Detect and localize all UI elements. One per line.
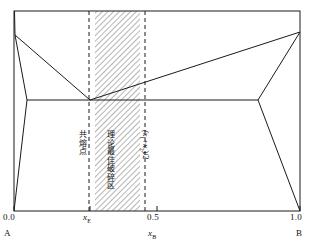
solvus-right-line [258,100,300,211]
annotation-midpoint-formula: (x1+x2)/2 [139,130,150,160]
phase-diagram-figure: 0.0 0.5 1.0 xE A B xB 共熔点 理论最佳破碎区 (x1+x2… [0,0,312,246]
x-axis-title-subscript: B [152,234,156,240]
tick-label-1: 1.0 [290,212,302,222]
endpoint-label-B: B [296,228,302,238]
solidus-left-line [15,35,27,100]
x-axis-title: xB [148,228,156,240]
tick-label-0point5: 0.5 [147,212,159,222]
annotation-optimal-zone: 理论最佳破碎区 [104,130,115,190]
eutectic-symbol-subscript: E [87,218,91,224]
x-axis-ticks [14,206,300,211]
solidus-right-line [258,32,300,100]
phase-boundary-lines [14,11,300,211]
plot-frame [14,11,300,211]
solvus-left-line [14,100,27,211]
midpoint-formula-post: )/2 [141,151,150,160]
tick-label-0: 0.0 [3,212,15,222]
tick-label-eutectic-composition: xE [83,212,91,224]
endpoint-label-A: A [4,228,11,238]
left-peak-stub-line [15,11,16,35]
midpoint-formula-mid: +x [141,139,150,148]
optimal-zone-hatch-band [95,11,140,211]
liquidus-left-line [15,35,90,100]
diagram-canvas [0,0,312,246]
annotation-eutectic-point: 共熔点 [76,130,87,156]
